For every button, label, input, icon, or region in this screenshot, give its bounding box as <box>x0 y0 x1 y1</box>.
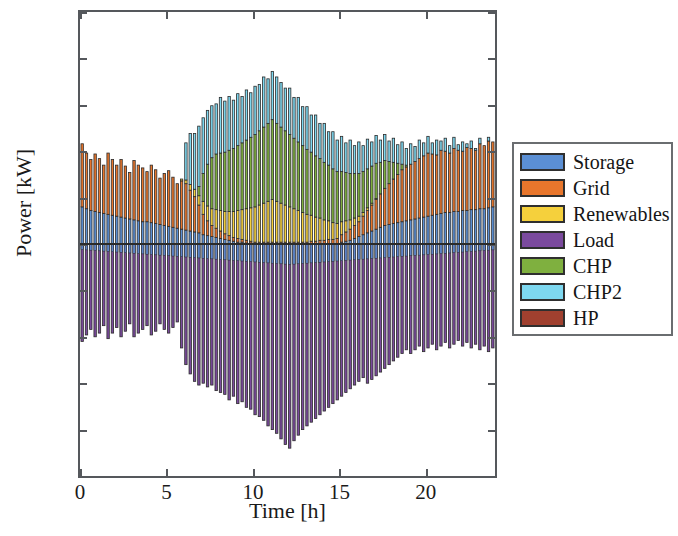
bar-segment <box>276 123 278 201</box>
bar-segment <box>448 212 450 244</box>
bar-segment <box>310 244 312 422</box>
bar-segment <box>427 136 429 153</box>
bar-segment <box>371 244 373 379</box>
bar-segment <box>483 244 485 346</box>
bar-segment <box>241 143 243 210</box>
bar-segment <box>353 225 355 238</box>
bar-segment <box>258 84 260 130</box>
legend-rows: StorageGridRenewablesLoadCHPCHP2HP <box>520 149 665 331</box>
bar-segment <box>353 218 355 225</box>
bar-segment <box>267 201 269 242</box>
bar-segment <box>440 141 442 150</box>
bar-segment <box>435 140 437 155</box>
legend-item-label: CHP2 <box>573 282 622 302</box>
bar-segment <box>245 140 247 209</box>
legend-item-chp[interactable]: CHP <box>520 253 665 279</box>
bar-segment <box>479 244 481 251</box>
bar-segment <box>258 244 260 262</box>
bar-segment <box>276 244 278 433</box>
legend-item-load[interactable]: Load <box>520 227 665 253</box>
bar-segment <box>241 244 243 261</box>
bar-segment <box>154 244 156 255</box>
bar-segment <box>198 126 200 186</box>
x-tick-label: 20 <box>406 482 446 503</box>
bar-segment <box>470 210 472 244</box>
bar-segment <box>258 244 260 417</box>
bar-segment <box>323 220 325 240</box>
bar-segment <box>280 203 282 242</box>
bar-segment <box>414 244 416 255</box>
bar-segment <box>202 244 204 258</box>
bar-segment <box>85 209 87 244</box>
bar-segment <box>466 244 468 252</box>
legend-color-swatch <box>520 205 565 223</box>
bar-segment <box>103 244 105 251</box>
bar-segment <box>336 224 338 239</box>
bar-segment <box>384 188 386 225</box>
legend-item-chp2[interactable]: CHP2 <box>520 279 665 305</box>
bar-segment <box>228 236 230 241</box>
bar-segment <box>98 244 100 333</box>
legend-item-renewables[interactable]: Renewables <box>520 201 665 227</box>
bar-segment <box>457 150 459 211</box>
bar-segment <box>211 158 213 209</box>
bar-segment <box>349 140 351 173</box>
bar-segment <box>418 244 420 255</box>
bar-segment <box>288 88 290 134</box>
bar-segment <box>453 244 455 344</box>
bar-segment <box>219 244 221 392</box>
bar-segment <box>163 173 165 225</box>
bar-segment <box>461 211 463 244</box>
x-tick-label: 15 <box>319 482 359 503</box>
bar-segment <box>276 77 278 123</box>
bar-segment <box>211 225 213 236</box>
bar-segment <box>250 137 252 208</box>
bar-segment <box>422 143 424 156</box>
bar-segment <box>375 229 377 244</box>
x-tick-mark <box>426 12 428 19</box>
bar-segment <box>172 244 174 328</box>
legend-item-hp[interactable]: HP <box>520 305 665 331</box>
bar-segment <box>163 244 165 255</box>
bar-segment <box>479 244 481 350</box>
y-tick-mark <box>80 151 87 153</box>
bar-segment <box>163 244 165 329</box>
bar-segment <box>90 160 92 211</box>
bar-segment <box>172 177 174 227</box>
bar-segment <box>410 244 412 354</box>
legend-item-storage[interactable]: Storage <box>520 149 665 175</box>
bar-segment <box>392 179 394 224</box>
bar-segment <box>254 244 256 262</box>
bar-segment <box>323 162 325 220</box>
bar-segment <box>232 100 234 148</box>
bar-segment <box>358 216 360 222</box>
y-tick-mark <box>80 105 87 107</box>
bar-segment <box>137 244 139 333</box>
bar-segment <box>211 244 213 385</box>
bar-segment <box>176 184 178 229</box>
bar-segment <box>185 244 187 257</box>
bar-segment <box>245 209 247 241</box>
bar-segment <box>111 244 113 333</box>
bar-segment <box>431 244 433 254</box>
bar-segment <box>250 244 252 262</box>
bar-segment <box>258 205 260 242</box>
bar-segment <box>327 132 329 165</box>
bar-segment <box>319 159 321 218</box>
legend-item-grid[interactable]: Grid <box>520 175 665 201</box>
x-tick-mark <box>339 12 341 19</box>
bar-segment <box>427 153 429 216</box>
bar-segment <box>358 244 360 381</box>
bar-segment <box>358 244 360 259</box>
bar-segment <box>453 212 455 244</box>
bar-segment <box>457 212 459 244</box>
bar-segment <box>414 219 416 244</box>
bar-segment <box>202 201 204 214</box>
y-tick-mark <box>488 290 495 292</box>
bar-segment <box>448 146 450 153</box>
bar-segment <box>211 106 213 158</box>
bar-segment <box>206 164 208 206</box>
bar-segment <box>366 211 368 233</box>
bar-segment <box>133 244 135 253</box>
bar-segment <box>384 160 386 188</box>
